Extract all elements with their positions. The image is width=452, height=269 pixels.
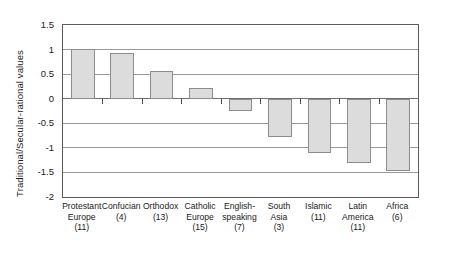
bar <box>308 99 332 153</box>
plot-area <box>62 24 419 198</box>
x-tick-label-line: (15) <box>180 222 219 233</box>
gridline <box>63 49 418 50</box>
bar <box>347 99 371 163</box>
x-tick-label-line: Africa <box>378 201 417 212</box>
x-tick-label-line: (3) <box>259 222 298 233</box>
x-tick-label: CatholicEurope(15) <box>180 201 219 233</box>
x-tick-label-line: (11) <box>338 222 377 233</box>
bar <box>386 99 410 172</box>
x-tick-label: SouthAsia(3) <box>259 201 298 233</box>
x-tick-mark <box>260 99 261 104</box>
y-tick-label: 0.5 <box>22 69 54 78</box>
x-tick-label-line: Asia <box>259 212 298 223</box>
x-tick-label-line: Orthodox <box>141 201 180 212</box>
x-tick-label-line: Protestant <box>62 201 101 212</box>
x-tick-label: English-speaking(7) <box>220 201 259 233</box>
y-tick-label: -1 <box>22 142 54 151</box>
bar <box>110 53 134 99</box>
x-tick-label-line: Islamic <box>299 201 338 212</box>
x-tick-label: Islamic(11) <box>299 201 338 222</box>
x-tick-label-line: (7) <box>220 222 259 233</box>
y-axis-tick-labels: 1.510.50-0.5-1-1.5-2 <box>22 24 54 198</box>
bar <box>268 99 292 137</box>
x-tick-label-line: speaking <box>220 212 259 223</box>
x-tick-label: LatinAmerica(11) <box>338 201 377 233</box>
x-axis-tick-labels: ProtestantEurope(11)Confucian(4)Orthodox… <box>62 201 419 267</box>
x-tick-mark <box>142 99 143 104</box>
bar <box>150 71 174 99</box>
x-tick-label-line: (11) <box>299 212 338 223</box>
x-tick-mark <box>300 99 301 104</box>
y-tick-label: 0 <box>22 93 54 102</box>
plot-inner <box>63 25 418 197</box>
x-tick-label-line: Confucian <box>101 201 140 212</box>
y-tick-label: 1.5 <box>22 20 54 29</box>
x-tick-label-line: Latin <box>338 201 377 212</box>
x-tick-label-line: Europe <box>180 212 219 223</box>
y-tick-label: -0.5 <box>22 118 54 127</box>
x-tick-mark <box>339 99 340 104</box>
gridline <box>63 172 418 173</box>
x-tick-label-line: Catholic <box>180 201 219 212</box>
x-tick-label-line: South <box>259 201 298 212</box>
y-tick-label: -2 <box>22 192 54 201</box>
x-tick-label-line: (6) <box>378 212 417 223</box>
x-tick-label-line: America <box>338 212 377 223</box>
x-tick-mark <box>221 99 222 104</box>
y-tick-label: -1.5 <box>22 167 54 176</box>
x-tick-label-line: (11) <box>62 222 101 233</box>
y-tick-label: 1 <box>22 44 54 53</box>
x-tick-label: Confucian(4) <box>101 201 140 222</box>
bar <box>189 88 213 99</box>
x-tick-label-line: (4) <box>101 212 140 223</box>
x-tick-mark <box>102 99 103 104</box>
x-tick-label-line: English- <box>220 201 259 212</box>
x-tick-mark <box>181 99 182 104</box>
x-tick-label: Orthodox(13) <box>141 201 180 222</box>
x-tick-mark <box>379 99 380 104</box>
x-tick-label: ProtestantEurope(11) <box>62 201 101 233</box>
chart-figure: Traditional/Secular-rational values 1.51… <box>0 0 452 269</box>
x-tick-label-line: Europe <box>62 212 101 223</box>
bar <box>71 49 95 99</box>
x-tick-label: Africa(6) <box>378 201 417 222</box>
bar <box>229 99 253 111</box>
x-tick-label-line: (13) <box>141 212 180 223</box>
